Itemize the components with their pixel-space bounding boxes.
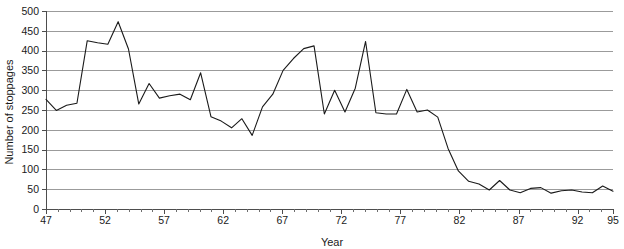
gridlines-group bbox=[46, 12, 613, 210]
y-tick-label: 300 bbox=[21, 84, 39, 96]
x-tick-labels: 4752576267727782879295 bbox=[40, 214, 619, 226]
chart-container: 050100150200250300350400450500 475257626… bbox=[0, 0, 624, 249]
x-tick-label: 72 bbox=[335, 214, 347, 226]
x-tick-label: 92 bbox=[572, 214, 584, 226]
y-tick-label: 350 bbox=[21, 64, 39, 76]
y-tick-label: 450 bbox=[21, 25, 39, 37]
y-tick-label: 250 bbox=[21, 104, 39, 116]
x-axis bbox=[46, 209, 614, 214]
line-chart: 050100150200250300350400450500 475257626… bbox=[0, 0, 624, 249]
y-tick-label: 200 bbox=[21, 124, 39, 136]
y-tick-label: 0 bbox=[33, 203, 39, 215]
x-tick-label: 52 bbox=[99, 214, 111, 226]
x-tick-label: 67 bbox=[276, 214, 288, 226]
y-axis-title: Number of stoppages bbox=[3, 59, 15, 165]
x-tick-label: 57 bbox=[158, 214, 170, 226]
y-tick-label: 100 bbox=[21, 163, 39, 175]
y-tick-label: 50 bbox=[27, 183, 39, 195]
x-tick-label: 82 bbox=[454, 214, 466, 226]
series-line-path bbox=[46, 22, 613, 193]
data-series-stoppages bbox=[46, 22, 613, 193]
x-tick-label: 95 bbox=[607, 214, 619, 226]
y-tick-labels: 050100150200250300350400450500 bbox=[21, 5, 39, 215]
x-tick-label: 47 bbox=[40, 214, 52, 226]
y-tick-label: 400 bbox=[21, 44, 39, 56]
x-tick-label: 87 bbox=[513, 214, 525, 226]
x-axis-title: Year bbox=[321, 236, 344, 248]
y-axis bbox=[42, 11, 47, 210]
y-tick-label: 150 bbox=[21, 143, 39, 155]
x-tick-label: 77 bbox=[395, 214, 407, 226]
y-tick-label: 500 bbox=[21, 5, 39, 17]
x-tick-label: 62 bbox=[217, 214, 229, 226]
